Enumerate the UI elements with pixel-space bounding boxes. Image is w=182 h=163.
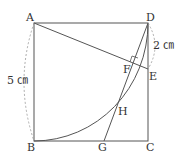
- segment-dg: [104, 23, 148, 141]
- label-f: F: [123, 64, 131, 75]
- label-b: B: [27, 142, 35, 153]
- label-d: D: [146, 12, 155, 23]
- arc-bd: [34, 23, 148, 141]
- label-h: H: [118, 106, 128, 117]
- measure-side: 5 ㎝: [7, 75, 29, 86]
- square-abcd: [34, 23, 148, 141]
- label-c: C: [146, 142, 154, 153]
- label-e: E: [149, 71, 157, 82]
- measure-de: 2 ㎝: [153, 40, 175, 51]
- label-a: A: [26, 12, 34, 23]
- label-g: G: [98, 142, 107, 153]
